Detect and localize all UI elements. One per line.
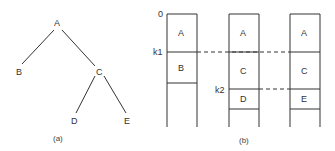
stack-cell: A <box>301 28 307 38</box>
stack-cell: B <box>178 63 184 73</box>
stack-cell: E <box>301 94 307 104</box>
marker-zero: 0 <box>158 9 163 19</box>
stack-cell: A <box>240 28 246 38</box>
edge-c-d <box>76 76 95 113</box>
marker-k1: k1 <box>153 47 163 57</box>
caption-b: (b) <box>239 136 249 145</box>
stack-cell: C <box>240 66 247 76</box>
tree-node-c: C <box>96 67 103 77</box>
stack-cell: D <box>240 94 247 104</box>
edge-a-b <box>22 30 54 64</box>
tree-node-b: B <box>16 67 22 77</box>
marker-k2: k2 <box>215 85 225 95</box>
stack-cell: A <box>178 28 184 38</box>
tree-node-e: E <box>124 116 130 126</box>
edge-a-c <box>62 30 95 66</box>
figure: A B C D E (a) <box>0 0 335 151</box>
tree-node-d: D <box>71 116 78 126</box>
tree-diagram <box>22 30 126 113</box>
tree-node-a: A <box>54 18 60 28</box>
stack-cell: C <box>301 66 308 76</box>
caption-a: (a) <box>53 134 63 143</box>
edge-c-e <box>104 76 126 113</box>
